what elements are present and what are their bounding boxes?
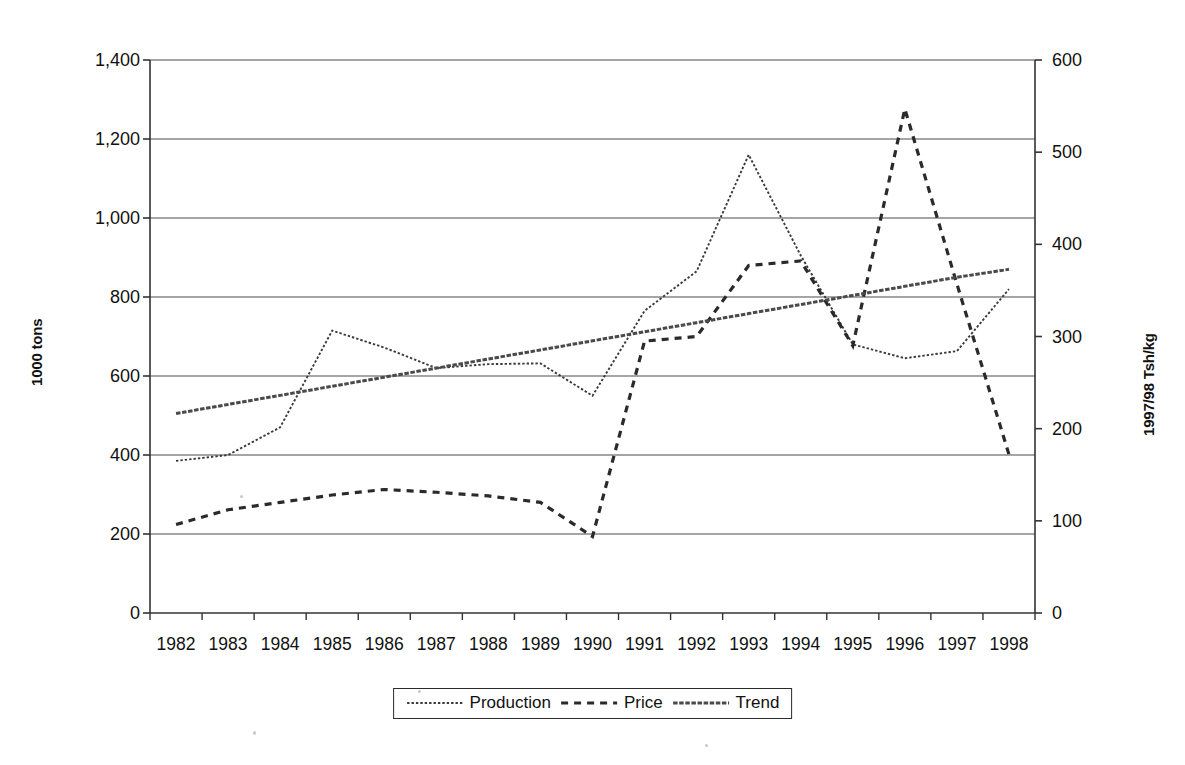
x-tick-label: 1989 — [521, 634, 560, 655]
x-tick-label: 1993 — [729, 634, 768, 655]
y-tick-label-right: 200 — [1052, 418, 1122, 439]
y-axis-right-title: 1997/98 Tsh/kg — [1140, 333, 1157, 436]
y-tick-label-right: 400 — [1052, 234, 1122, 255]
y-tick-label-right: 300 — [1052, 326, 1122, 347]
legend-label: Production — [470, 693, 551, 713]
x-tick-label: 1990 — [573, 634, 612, 655]
series-line-production — [176, 155, 1009, 461]
x-tick-label: 1986 — [365, 634, 404, 655]
legend-item-price: Price — [560, 693, 663, 713]
legend-item-production: Production — [406, 693, 551, 713]
series-line-trend — [176, 269, 1009, 413]
series-line-price — [176, 109, 1009, 537]
x-tick-label: 1988 — [469, 634, 508, 655]
y-tick-label-right: 0 — [1052, 603, 1122, 624]
x-tick-label: 1992 — [677, 634, 716, 655]
x-tick-label: 1996 — [885, 634, 924, 655]
y-tick-label-right: 600 — [1052, 50, 1122, 71]
x-tick-label: 1995 — [833, 634, 872, 655]
y-tick-label-left: 400 — [60, 445, 140, 466]
y-tick-label-left: 800 — [60, 287, 140, 308]
x-tick-label: 1983 — [209, 634, 248, 655]
y-tick-label-left: 0 — [60, 603, 140, 624]
x-tick-label: 1985 — [313, 634, 352, 655]
y-axis-left-title: 1000 tons — [28, 319, 45, 386]
legend-label: Price — [624, 693, 663, 713]
chart-legend: ProductionPriceTrend — [393, 688, 793, 719]
x-tick-label: 1997 — [937, 634, 976, 655]
dense-dash-line-icon — [672, 698, 730, 708]
y-tick-label-right: 100 — [1052, 510, 1122, 531]
x-tick-label: 1987 — [417, 634, 456, 655]
legend-label: Trend — [736, 693, 780, 713]
y-tick-label-left: 1,000 — [60, 208, 140, 229]
x-tick-label: 1984 — [261, 634, 300, 655]
y-tick-label-right: 500 — [1052, 142, 1122, 163]
x-tick-label: 1991 — [625, 634, 664, 655]
y-tick-label-left: 1,200 — [60, 129, 140, 150]
y-tick-label-left: 600 — [60, 366, 140, 387]
y-tick-label-left: 1,400 — [60, 50, 140, 71]
fine-dotted-line-icon — [406, 698, 464, 708]
x-tick-label: 1994 — [781, 634, 820, 655]
y-tick-label-left: 200 — [60, 524, 140, 545]
x-tick-label: 1982 — [157, 634, 196, 655]
x-tick-label: 1998 — [990, 634, 1029, 655]
dashed-line-icon — [560, 698, 618, 708]
legend-item-trend: Trend — [672, 693, 780, 713]
chart-figure: 1000 tons 1997/98 Tsh/kg 02004006008001,… — [0, 0, 1185, 765]
